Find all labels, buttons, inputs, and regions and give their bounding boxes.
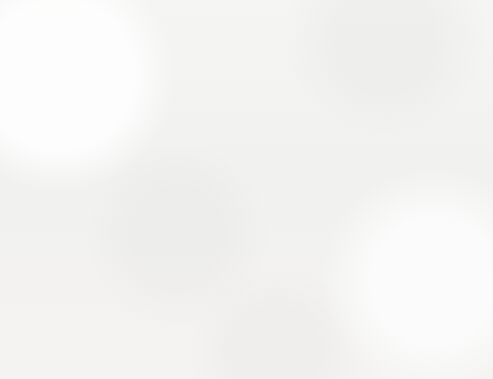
x-axis-category-label: Lincoln <box>275 327 385 342</box>
bar <box>108 64 164 320</box>
x-axis-category-label: Brooklyn- Battery <box>80 327 190 357</box>
x-axis-category-label: Holland <box>178 327 288 342</box>
y-axis-tick-label: 5,000 <box>4 173 82 185</box>
bar <box>401 135 457 320</box>
x-axis-category-label: Queens Midtown <box>373 327 483 357</box>
y-axis-tick-label: 7,000 <box>4 116 82 128</box>
question-number: 48. <box>8 11 29 28</box>
chart-title: Longest Underwater Automobile Tunnels in… <box>108 9 480 23</box>
y-axis-tick-label: 4,000 <box>4 201 82 213</box>
y-axis-tick-label: 6,000 <box>4 145 82 157</box>
bar <box>303 93 359 320</box>
gridline <box>87 322 476 323</box>
plot-area <box>86 37 477 321</box>
y-axis-tick-label: 1,000 <box>4 287 82 299</box>
y-axis-tick-label: 3,000 <box>4 230 82 242</box>
y-axis-tick-label: 9,000 <box>4 59 82 71</box>
y-axis-tick-label: 10,000 <box>4 31 82 43</box>
y-axis-tick-label: 2,000 <box>4 258 82 270</box>
y-axis-tick-label: 8,000 <box>4 88 82 100</box>
bar <box>206 79 262 320</box>
bar-series <box>87 38 476 320</box>
y-axis-tick-labels: 10,0009,0008,0007,0006,0005,0004,0003,00… <box>0 37 82 321</box>
y-axis-tick-label: 0 <box>4 315 82 327</box>
x-axis-category-labels: Brooklyn- BatteryHollandLincolnQueens Mi… <box>86 327 477 373</box>
